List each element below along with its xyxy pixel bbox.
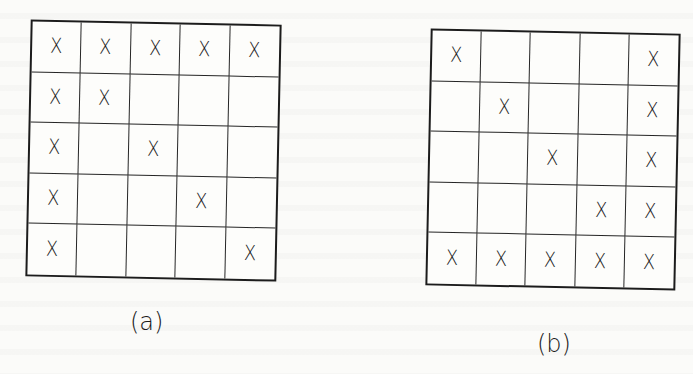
matrix-cell-r3-c2: [79, 124, 129, 176]
matrix-cell-r2-c3: [529, 83, 579, 135]
cross-mark: X: [98, 88, 111, 109]
matrix-cell-r3-c5: X: [626, 136, 676, 188]
cross-mark: X: [99, 37, 112, 58]
matrix-cell-r5-c2: [77, 225, 127, 277]
cross-mark: X: [647, 49, 660, 70]
matrix-cell-r4-c5: X: [625, 186, 675, 238]
matrix-cell-r4-c4: X: [576, 185, 626, 237]
matrix-cell-r4-c1: X: [28, 173, 78, 225]
cross-mark: X: [46, 239, 59, 260]
matrix-cell-r3-c3: X: [528, 134, 578, 186]
matrix-cell-r1-c3: X: [130, 24, 180, 76]
matrix-cell-r2-c5: [228, 76, 278, 128]
cross-mark: X: [593, 251, 606, 272]
cross-mark: X: [149, 38, 162, 59]
matrix-cell-r1-c3: [530, 33, 580, 85]
cross-mark: X: [198, 39, 211, 60]
cross-mark: X: [546, 148, 559, 169]
matrix-cell-r5-c3: [126, 226, 176, 278]
matrix-cell-r1-c2: X: [81, 22, 131, 74]
matrix-cell-r3-c1: X: [29, 123, 79, 175]
matrix-grid-a: XXXXXXXXXXXXX: [25, 19, 281, 281]
cross-mark: X: [47, 188, 60, 209]
matrix-cell-r3-c1: [429, 132, 479, 184]
cross-mark: X: [49, 87, 62, 108]
matrix-cell-r1-c4: [579, 34, 629, 86]
matrix-cell-r4-c3: [127, 175, 177, 227]
matrix-cell-r4-c2: [478, 183, 528, 235]
matrix-cell-r1-c1: X: [432, 30, 482, 82]
cross-mark: X: [544, 250, 557, 271]
matrix-cell-r5-c1: X: [427, 233, 477, 285]
cross-mark: X: [244, 243, 257, 264]
cross-mark: X: [644, 201, 657, 222]
cross-mark: X: [645, 150, 658, 171]
matrix-cell-r2-c3: [129, 74, 179, 126]
matrix-cell-r2-c1: [431, 81, 481, 133]
cross-mark: X: [50, 36, 63, 57]
matrix-cell-r1-c5: X: [229, 26, 279, 78]
matrix-cell-r3-c3: X: [128, 125, 178, 177]
matrix-cell-r5-c3: X: [526, 235, 576, 287]
matrix-cell-r2-c1: X: [31, 72, 81, 124]
cross-mark: X: [147, 139, 160, 160]
matrix-cell-r1-c1: X: [32, 21, 82, 73]
matrix-cell-r1-c4: X: [180, 25, 230, 77]
figure-caption-b: (b): [537, 330, 571, 358]
matrix-cell-r5-c4: [176, 227, 226, 279]
cross-mark: X: [643, 252, 656, 273]
cross-mark: X: [498, 97, 511, 118]
matrix-cell-r3-c2: [479, 133, 529, 185]
matrix-cell-r2-c5: X: [627, 85, 677, 137]
matrix-cell-r1-c2: [481, 31, 531, 83]
cross-mark: X: [594, 200, 607, 221]
matrix-cell-r5-c5: X: [225, 228, 275, 280]
cross-mark: X: [48, 137, 61, 158]
matrix-cell-r2-c4: [578, 84, 628, 136]
matrix-cell-r2-c2: X: [480, 82, 530, 134]
cross-mark: X: [646, 100, 659, 121]
matrix-cell-r4-c3: [527, 184, 577, 236]
matrix-cell-r2-c2: X: [80, 73, 130, 125]
matrix-cell-r5-c2: X: [477, 234, 527, 286]
matrix-cell-r4-c2: [78, 174, 128, 226]
matrix-cell-r5-c1: X: [27, 224, 77, 276]
matrix-cell-r5-c4: X: [575, 236, 625, 288]
matrix-cell-r1-c5: X: [628, 35, 678, 87]
matrix-cell-r4-c1: [428, 182, 478, 234]
cross-mark: X: [248, 40, 261, 61]
matrix-cell-r3-c5: [227, 127, 277, 179]
matrix-cell-r3-c4: [577, 135, 627, 187]
matrix-cell-r3-c4: [178, 126, 228, 178]
cross-mark: X: [195, 191, 208, 212]
matrix-grid-b: XXXXXXXXXXXXX: [425, 28, 680, 290]
matrix-cell-r4-c4: X: [177, 176, 227, 228]
matrix-cell-r2-c4: [179, 75, 229, 127]
figure-caption-a: (a): [130, 308, 163, 336]
matrix-cell-r5-c5: X: [624, 237, 674, 289]
cross-mark: X: [450, 45, 463, 66]
cross-mark: X: [495, 249, 508, 270]
matrix-cell-r4-c5: [226, 177, 276, 229]
cross-mark: X: [446, 248, 459, 269]
